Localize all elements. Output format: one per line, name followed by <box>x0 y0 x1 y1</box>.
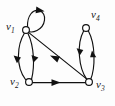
node-label-v4: v4 <box>91 9 100 20</box>
node-v1[interactable] <box>23 27 30 34</box>
arrowhead-v3-v1 <box>50 56 60 63</box>
graph-figure: v1 v2 v3 v4 <box>0 0 115 106</box>
edge-v1-v1-self-loop <box>27 10 44 32</box>
edge-v3-v4-left <box>79 31 87 79</box>
node-label-v1: v1 <box>6 21 15 32</box>
arrowhead-v3-v4-left <box>77 48 84 56</box>
edges-group <box>14 7 97 86</box>
arrowhead-v1-v2-right <box>32 55 39 63</box>
node-v2[interactable] <box>26 79 33 86</box>
arrowhead-v1-self-loop <box>36 7 45 14</box>
arrowhead-v2-v3 <box>52 79 61 86</box>
edge-v1-v2-left <box>18 33 25 80</box>
node-v4[interactable] <box>83 25 90 32</box>
arrowhead-v1-v2-left <box>14 56 21 64</box>
arrowhead-v4-v3-right <box>90 51 96 58</box>
node-label-v2: v2 <box>10 76 19 87</box>
node-label-v3: v3 <box>96 79 105 90</box>
edge-v3-v1 <box>29 33 88 80</box>
node-v3[interactable] <box>86 79 93 86</box>
